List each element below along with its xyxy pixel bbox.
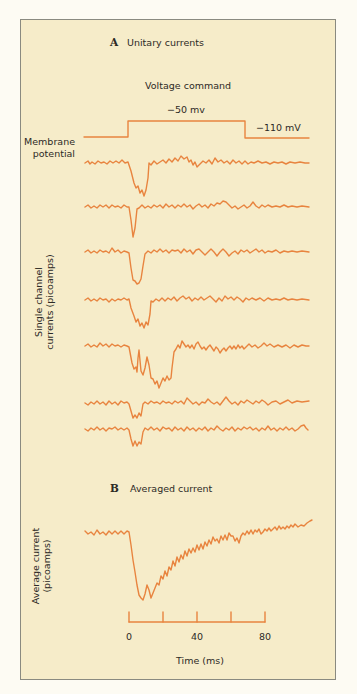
time-axis <box>129 612 265 622</box>
averaged-current-trace <box>85 520 312 600</box>
traces-canvas <box>0 0 357 694</box>
voltage-command-trace <box>84 121 309 138</box>
single-channel-trace-6 <box>85 397 309 418</box>
single-channel-trace-5 <box>85 341 309 388</box>
single-channel-trace-3 <box>85 248 309 284</box>
single-channel-trace-4 <box>85 296 309 328</box>
single-channel-trace-2 <box>85 201 309 237</box>
single-channel-trace-7 <box>85 425 308 446</box>
single-channel-trace-1 <box>85 156 309 196</box>
